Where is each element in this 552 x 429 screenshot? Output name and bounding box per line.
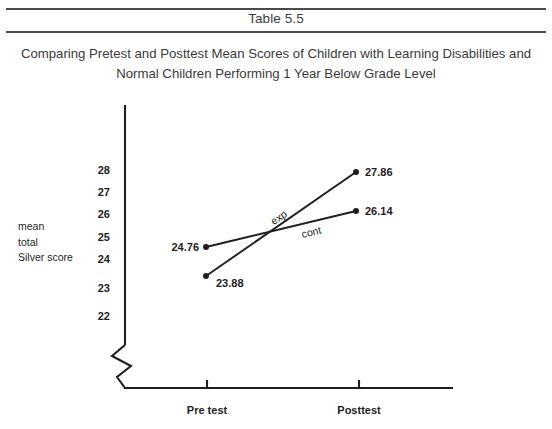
- y-tick-label-28: 28: [86, 164, 110, 176]
- x-category-label-posttest: Posttest: [314, 404, 404, 416]
- data-point-cont-posttest: [353, 208, 359, 214]
- y-tick-label-25: 25: [86, 231, 110, 243]
- y-tick-label-27: 27: [86, 186, 110, 198]
- x-category-label-pre-test: Pre test: [162, 404, 252, 416]
- data-point-exp-posttest: [353, 169, 359, 175]
- y-tick-label-23: 23: [86, 282, 110, 294]
- value-label-exp-pretest: 23.88: [216, 277, 244, 289]
- value-label-cont-posttest: 26.14: [365, 205, 393, 217]
- series-line-exp: [206, 172, 356, 276]
- y-axis-label-line-3: Silver score: [18, 250, 73, 266]
- axis-break-zigzag: [112, 345, 131, 388]
- table-figure-page: Table 5.5 Comparing Pretest and Posttest…: [0, 0, 552, 429]
- y-axis-label-line-1: mean: [18, 219, 73, 235]
- data-point-exp-pretest: [203, 273, 209, 279]
- y-axis-label: mean total Silver score: [18, 219, 73, 266]
- data-point-cont-pretest: [203, 244, 209, 250]
- y-axis-label-line-2: total: [18, 235, 73, 251]
- value-label-exp-posttest: 27.86: [365, 166, 393, 178]
- y-tick-label-24: 24: [86, 253, 110, 265]
- value-label-cont-pretest: 24.76: [171, 241, 199, 253]
- y-tick-label-22: 22: [86, 310, 110, 322]
- y-tick-label-26: 26: [86, 208, 110, 220]
